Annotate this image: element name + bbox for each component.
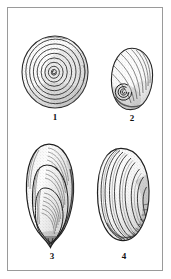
figure-3-elongate-bivalve bbox=[22, 143, 82, 249]
figure-4-oval-bivalve bbox=[95, 147, 152, 243]
figure-4-number-label: 4 bbox=[106, 251, 142, 261]
figure-2-ovate-shell bbox=[110, 47, 154, 111]
illustration-plate: 1 bbox=[0, 0, 171, 279]
figure-2-number-label: 2 bbox=[114, 113, 150, 123]
figure-3-number-label: 3 bbox=[34, 251, 70, 261]
figure-1-number-label: 1 bbox=[37, 112, 73, 122]
figure-1-planispiral-shell bbox=[21, 35, 89, 109]
